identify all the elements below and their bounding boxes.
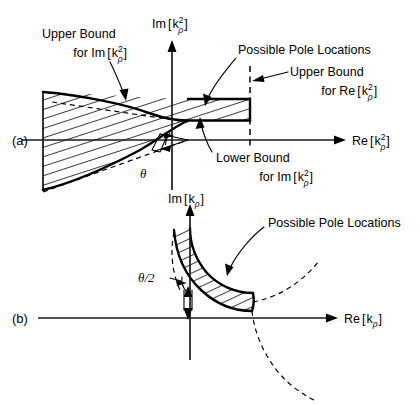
panel-a-leader-possible-poles bbox=[208, 58, 236, 98]
panel-b-leader-possible-poles-arrowhead bbox=[225, 264, 234, 277]
panel-a-re-open-bracket: [ bbox=[370, 134, 374, 148]
annotation-upper-bound-re: Upper Bound for Re[k2ρ] bbox=[290, 65, 401, 102]
panel-a-leader-upper-bound-re-arrowhead bbox=[252, 75, 265, 82]
panel-a-leader-upper-bound-re bbox=[260, 72, 288, 79]
annotation-upper-bound-re-line2-prefix: for Re bbox=[321, 84, 355, 98]
panel-a-real-axis-label: Re[k2ρ] bbox=[352, 132, 390, 152]
panel-a-re-close-bracket: ] bbox=[386, 134, 389, 148]
panel-a-real-axis-arrowhead bbox=[334, 136, 346, 145]
annotation-upper-bound-re-line1: Upper Bound bbox=[290, 65, 364, 79]
panel-b-im-prefix: Im bbox=[168, 192, 182, 206]
annotation-lower-bound-im-sup: 2 bbox=[304, 168, 309, 178]
technical-diagram-svg: (a) (b) Im[k2ρ] Re[k2ρ] Upper Bound for … bbox=[0, 0, 420, 404]
annotation-upper-bound-im-sub: ρ bbox=[117, 54, 123, 64]
panel-a-im-close-bracket: ] bbox=[184, 17, 187, 31]
panel-a-leader-lower-bound-im bbox=[201, 124, 212, 152]
annotation-lower-bound-im-sub: ρ bbox=[303, 178, 309, 188]
panel-b-hyperbola-lower-branch bbox=[252, 311, 314, 400]
panel-b-im-close-bracket: ] bbox=[201, 192, 204, 206]
panel-a-re-prefix: Re bbox=[352, 134, 368, 148]
panel-a-imaginary-axis-arrowhead bbox=[168, 40, 177, 52]
annotation-upper-bound-re-sup: 2 bbox=[368, 82, 373, 92]
svg-text:Re[k2ρ]: Re[k2ρ] bbox=[352, 132, 390, 152]
panel-b-re-close-bracket: ] bbox=[379, 312, 382, 326]
panel-a-label: (a) bbox=[12, 133, 28, 148]
panel-b-real-axis-label: Re[kρ] bbox=[344, 312, 382, 329]
panel-a-im-prefix: Im bbox=[152, 17, 166, 31]
panel-a-imaginary-axis-label: Im[k2ρ] bbox=[152, 15, 188, 35]
svg-text:Im[k2ρ]: Im[k2ρ] bbox=[152, 15, 188, 35]
panel-b-label: (b) bbox=[12, 311, 28, 326]
panel-b-re-sub: ρ bbox=[372, 319, 378, 329]
annotation-upper-bound-im: Upper Bound for Im[k2ρ] bbox=[42, 27, 151, 64]
panel-b-imaginary-axis-label: Im[kρ] bbox=[168, 192, 204, 209]
panel-a-im-sup: 2 bbox=[179, 15, 184, 25]
panel-a-im-open-bracket: [ bbox=[168, 17, 172, 31]
annotation-upper-bound-re-sub: ρ bbox=[367, 92, 373, 102]
panel-a-leader-upper-bound-im bbox=[110, 62, 124, 94]
annotation-lower-bound-im-line1: Lower Bound bbox=[216, 151, 290, 165]
panel-a-re-sup: 2 bbox=[381, 132, 386, 142]
svg-text:Im[kρ]: Im[kρ] bbox=[168, 192, 204, 209]
panel-b-leader-possible-poles bbox=[230, 227, 264, 268]
svg-text:for Im[k2ρ]: for Im[k2ρ] bbox=[228, 168, 337, 188]
annotation-possible-pole-locations-b: Possible Pole Locations bbox=[268, 216, 401, 230]
figure-root: (a) (b) Im[k2ρ] Re[k2ρ] Upper Bound for … bbox=[0, 0, 420, 404]
panel-b-theta-half-arrow-up bbox=[184, 286, 193, 297]
panel-b-graphics bbox=[38, 204, 338, 400]
svg-text:for Re[k2ρ]: for Re[k2ρ] bbox=[290, 82, 401, 102]
panel-b-im-sub: ρ bbox=[194, 199, 200, 209]
panel-b-re-open-bracket: [ bbox=[362, 312, 366, 326]
panel-a-im-sub: ρ bbox=[177, 25, 183, 35]
panel-a-theta-label: θ bbox=[140, 166, 147, 181]
panel-a-pole-region bbox=[43, 92, 250, 190]
svg-text:Re[kρ]: Re[kρ] bbox=[344, 312, 382, 329]
annotation-upper-bound-im-line2-prefix: for Im bbox=[73, 46, 105, 60]
panel-a-re-sub: ρ bbox=[379, 142, 385, 152]
panel-b-im-open-bracket: [ bbox=[184, 192, 188, 206]
annotation-possible-pole-locations-a: Possible Pole Locations bbox=[238, 43, 371, 57]
svg-text:for Im[k2ρ]: for Im[k2ρ] bbox=[42, 44, 151, 64]
annotation-lower-bound-im-line2-prefix: for Im bbox=[259, 170, 291, 184]
panel-b-theta-half-label: θ/2 bbox=[138, 270, 155, 285]
annotation-lower-bound-im: Lower Bound for Im[k2ρ] bbox=[216, 151, 337, 188]
panel-b-re-prefix: Re bbox=[344, 312, 360, 326]
panel-b-real-axis-arrowhead bbox=[326, 314, 338, 323]
annotation-upper-bound-im-line1: Upper Bound bbox=[42, 27, 116, 41]
panel-b-hyperbola-upper-branch bbox=[253, 262, 318, 302]
annotation-upper-bound-im-sup: 2 bbox=[118, 44, 123, 54]
